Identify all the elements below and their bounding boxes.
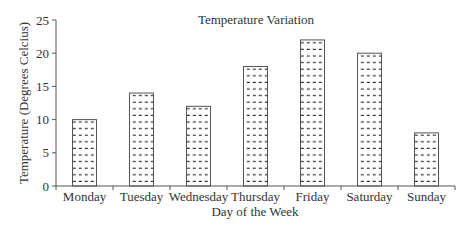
bar-saturday (358, 53, 382, 186)
chart-title: Temperature Variation (198, 12, 315, 27)
y-tick-label: 20 (36, 46, 49, 61)
x-tick-label: Wednesday (169, 189, 229, 204)
bar-chart: Temperature Variation Temperature (Degre… (0, 0, 470, 229)
y-axis-label: Temperature (Degrees Celcius) (16, 22, 31, 184)
y-axis: 0510152025 (36, 13, 56, 194)
bars-group (73, 40, 439, 186)
y-tick-label: 0 (43, 179, 50, 194)
x-tick-label: Friday (296, 189, 330, 204)
x-axis-label: Day of the Week (211, 204, 299, 219)
y-tick-label: 10 (36, 112, 49, 127)
x-tick-label: Monday (63, 189, 107, 204)
x-tick-label: Sunday (407, 189, 447, 204)
bar-thursday (244, 66, 268, 186)
bar-sunday (415, 133, 439, 186)
x-tick-label: Thursday (231, 189, 281, 204)
x-axis: MondayTuesdayWednesdayThursdayFridaySatu… (56, 186, 455, 204)
bar-tuesday (130, 93, 154, 186)
y-tick-label: 25 (36, 13, 49, 28)
bar-monday (73, 120, 97, 186)
bar-friday (301, 40, 325, 186)
x-tick-label: Saturday (346, 189, 393, 204)
y-tick-label: 15 (36, 79, 49, 94)
y-tick-label: 5 (43, 145, 50, 160)
x-tick-label: Tuesday (120, 189, 164, 204)
bar-wednesday (187, 106, 211, 186)
